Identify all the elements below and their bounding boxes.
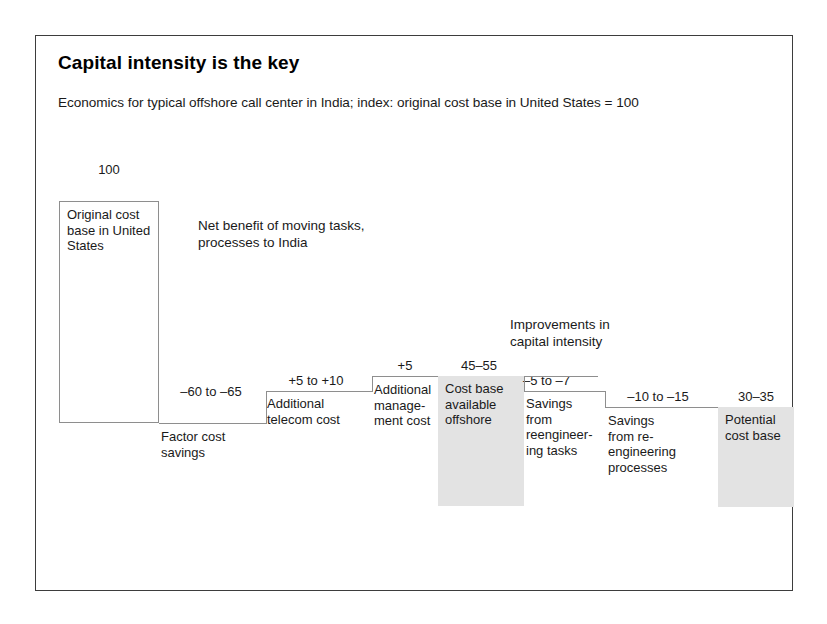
bar-label-potential-cost-base: Potential cost base: [725, 412, 790, 443]
connector-savings-reengineering-processes-bottom: [605, 407, 718, 408]
value-label-additional-management-cost: +5: [370, 358, 440, 373]
bar-potential-cost-base[interactable]: Potential cost base: [718, 407, 794, 507]
category-label-savings-reengineering-tasks: Savings from reengineer- ing tasks: [526, 396, 606, 458]
connector-savings-reengineering-tasks-step: [524, 391, 606, 392]
exhibit-frame: Capital intensity is the key Economics f…: [35, 35, 793, 591]
category-label-additional-telecom-cost: Additional telecom cost: [267, 396, 373, 427]
value-label-cost-base-available-offshore: 45–55: [436, 358, 522, 373]
category-label-additional-management-cost: Additional manage- ment cost: [374, 382, 444, 429]
connector-savings-reengineering-tasks-left: [524, 376, 525, 392]
bar-label-cost-base-available-offshore: Cost base available offshore: [445, 381, 520, 428]
value-label-potential-cost-base: 30–35: [716, 389, 796, 404]
value-label-savings-reengineering-processes: –10 to –15: [603, 389, 713, 404]
value-label-additional-telecom-cost: +5 to +10: [264, 373, 368, 388]
category-label-factor-cost-savings: Factor cost savings: [161, 429, 266, 460]
value-label-factor-cost-savings: –60 to –65: [161, 384, 261, 399]
value-label-original-cost-base: 100: [59, 162, 159, 177]
category-label-savings-reengineering-processes: Savings from re- engineering processes: [608, 413, 708, 475]
connector-factor-cost-savings-bottom: [159, 423, 267, 424]
bar-cost-base-available-offshore[interactable]: Cost base available offshore: [438, 376, 524, 506]
annotation-capital-intensity: Improvements in capital intensity: [510, 317, 710, 350]
bar-label-original-cost-base: Original cost base in United States: [67, 207, 154, 254]
connector-additional-telecom-cost-top: [266, 391, 373, 392]
waterfall-chart: 100 Original cost base in United States …: [36, 36, 794, 592]
connector-savings-reengineering-tasks-top: [524, 376, 598, 377]
connector-additional-management-cost-top: [372, 376, 438, 377]
annotation-net-benefit: Net benefit of moving tasks, processes t…: [198, 218, 448, 251]
bar-original-cost-base[interactable]: Original cost base in United States: [59, 201, 159, 423]
connector-additional-telecom-cost-right: [372, 376, 373, 392]
